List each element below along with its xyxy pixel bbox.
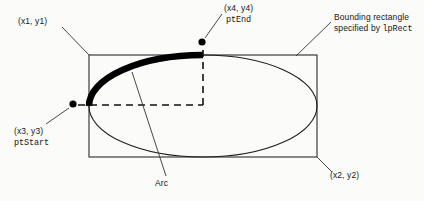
label-top-left-corner: (x1, y1) [18,16,47,27]
leader-line-bounding-rect [296,22,331,56]
label-ptstart-name: ptStart [14,138,49,148]
arc-highlight [89,55,203,106]
leader-line-x1y1 [62,27,89,55]
label-lprect-param: lpRect [383,24,413,34]
label-bounding-rectangle: Bounding rectangle specified by lpRect [334,12,413,35]
label-end-point: (x4, y4) ptEnd [224,3,253,26]
label-start-point: (x3, y3) ptStart [14,126,49,149]
label-ptend-name: ptEnd [226,15,251,25]
leader-line-arc [132,72,166,176]
label-bottom-right-corner: (x2, y2) [330,170,359,181]
label-arc: Arc [155,178,168,189]
ptstart-dot [69,100,76,107]
leader-line-ptend [205,14,222,38]
arc-diagram: (x1, y1) (x4, y4) ptEnd Bounding rectang… [0,0,424,201]
ptend-dot [198,38,205,45]
leader-line-ptstart [46,108,69,124]
